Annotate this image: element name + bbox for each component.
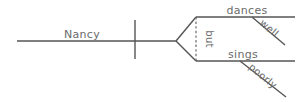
branch-2-verb-label: sings	[228, 48, 258, 61]
sentence-diagram-canvas: Nancy but dances well sings poorly	[0, 0, 301, 102]
branch-1-verb-label: dances	[226, 4, 267, 17]
conjunction-label: but	[204, 30, 215, 48]
fork-upper-diagonal	[176, 17, 196, 41]
branch-2-modifier-label: poorly	[247, 61, 280, 91]
branch-1-modifier-label: well	[258, 17, 281, 39]
diagram-drawing: Nancy but dances well sings poorly	[0, 0, 301, 102]
subject-label: Nancy	[64, 28, 100, 41]
fork-lower-diagonal	[176, 41, 196, 61]
